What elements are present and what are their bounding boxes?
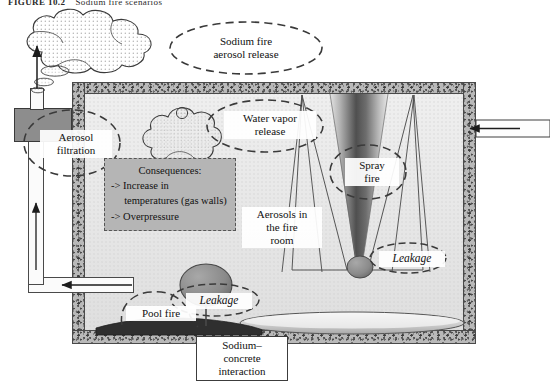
label-sodium-concrete-interaction: Sodium– concrete interaction	[196, 336, 288, 381]
label-water-vapor-release: Water vapor release	[224, 111, 316, 139]
aerosols-room-line2: the fire	[246, 221, 318, 234]
sodium-aerosol-line1: Sodium fire	[190, 35, 302, 48]
label-sodium-fire-aerosol-release: Sodium fire aerosol release	[190, 35, 302, 61]
aerosol-filtration-line2: filtration	[44, 144, 108, 157]
label-aerosols-in-fire-room: Aerosols in the fire room	[242, 207, 322, 248]
aerosols-room-line3: room	[246, 234, 318, 247]
sodium-fire-aerosol-cloud	[27, 9, 151, 73]
spray-fire-line1: Spray	[349, 159, 395, 172]
sodium-concrete-line2: concrete	[203, 352, 281, 365]
water-vapor-line1: Water vapor	[228, 112, 312, 125]
label-pool-fire: Pool fire	[126, 306, 196, 321]
consequences-panel: Consequences: -> Increase in temperature…	[104, 158, 236, 231]
spray-leakage-droplet	[347, 256, 373, 278]
aerosol-filtration-line1: Aerosol	[44, 131, 108, 144]
vapor-bubble	[176, 107, 187, 118]
consequences-heading: Consequences:	[111, 163, 229, 178]
consequences-item1-line1: -> Increase in	[111, 178, 229, 193]
aerosols-room-line1: Aerosols in	[246, 208, 318, 221]
spray-fire-line2: fire	[349, 172, 395, 185]
label-leakage-spray: Leakage	[379, 251, 445, 267]
figure-canvas: FIGURE 10.2Sodium fire scenarios	[0, 0, 550, 387]
label-aerosol-filtration: Aerosol filtration	[40, 130, 112, 158]
sodium-pool	[240, 312, 464, 334]
external-inflow-duct	[470, 120, 550, 137]
sodium-concrete-line3: interaction	[203, 365, 281, 378]
sodium-concrete-line1: Sodium–	[203, 339, 281, 352]
stack-puff-large	[41, 66, 69, 76]
stack-puff-small	[32, 87, 45, 93]
label-spray-fire: Spray fire	[345, 158, 399, 186]
water-vapor-cloud	[143, 107, 222, 165]
sodium-aerosol-line2: aerosol release	[190, 48, 302, 61]
consequences-item1-line2: temperatures (gas walls)	[111, 193, 229, 208]
water-vapor-line2: release	[228, 125, 312, 138]
consequences-item2: -> Overpressure	[111, 209, 229, 224]
